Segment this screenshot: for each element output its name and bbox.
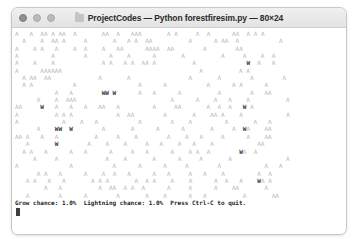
empty-cell	[120, 133, 134, 140]
empty-cell	[254, 74, 283, 81]
empty-cell	[51, 74, 98, 81]
simulation-grid: A A AA A AA A AA A AAA A A A A AA A A A …	[15, 30, 346, 199]
empty-cell	[264, 52, 271, 59]
empty-cell	[134, 59, 141, 66]
empty-cell	[91, 140, 105, 147]
grid-row: A A A A A A A A A	[15, 162, 346, 169]
empty-cell	[87, 45, 101, 52]
empty-cell	[272, 89, 290, 96]
empty-cell	[236, 125, 243, 132]
tree-glyph: A	[286, 155, 290, 162]
empty-cell	[142, 81, 164, 88]
empty-cell	[58, 89, 69, 96]
empty-cell	[207, 192, 243, 199]
empty-cell	[225, 170, 258, 177]
empty-cell	[51, 177, 62, 184]
empty-cell	[19, 111, 55, 118]
empty-cell	[73, 103, 84, 110]
empty-cell	[225, 52, 243, 59]
empty-cell	[174, 118, 188, 125]
empty-cell	[178, 30, 196, 37]
empty-cell	[113, 52, 127, 59]
empty-cell	[15, 170, 37, 177]
empty-cell	[105, 170, 112, 177]
empty-cell	[167, 111, 192, 118]
empty-cell	[243, 177, 257, 184]
empty-cell	[37, 155, 55, 162]
empty-cell	[142, 30, 167, 37]
empty-cell	[243, 45, 290, 52]
fire-glyph: WW	[102, 89, 109, 96]
empty-cell	[19, 45, 33, 52]
empty-cell	[174, 148, 188, 155]
grid-row: A WW W A A A A A A WA AA	[15, 125, 346, 132]
empty-cell	[192, 184, 214, 191]
grid-row: A A AA A AA A AA A AAA A A A A AA A A A	[15, 30, 346, 37]
empty-cell	[171, 184, 189, 191]
tree-glyph: AA	[264, 133, 271, 140]
empty-cell	[214, 125, 232, 132]
zoom-button[interactable]	[47, 14, 55, 22]
empty-cell	[62, 184, 98, 191]
empty-cell	[218, 177, 225, 184]
empty-cell	[171, 170, 189, 177]
empty-cell	[40, 96, 54, 103]
empty-cell	[142, 118, 171, 125]
empty-cell	[120, 111, 127, 118]
minimize-button[interactable]	[33, 14, 41, 22]
empty-cell	[87, 148, 109, 155]
close-button[interactable]	[19, 14, 27, 22]
empty-cell	[225, 111, 239, 118]
tree-glyph: AAA	[66, 96, 77, 103]
empty-cell	[131, 52, 153, 59]
empty-cell	[116, 170, 127, 177]
empty-cell	[181, 155, 199, 162]
empty-cell	[73, 89, 102, 96]
empty-cell	[149, 148, 171, 155]
empty-cell	[174, 177, 188, 184]
empty-cell	[210, 81, 232, 88]
empty-cell	[33, 81, 73, 88]
grid-row: AA A A A A A A A A A A A AA	[15, 133, 346, 140]
empty-cell	[257, 148, 290, 155]
empty-cell	[19, 59, 33, 66]
window-titlebar[interactable]: ProjectCodes — Python forestfiresim.py —…	[12, 8, 346, 28]
empty-cell	[272, 170, 290, 177]
empty-cell	[127, 140, 145, 147]
tree-glyph: AA	[142, 59, 149, 66]
terminal-content[interactable]: A A AA A AA A AA A AAA A A A A AA A A A …	[12, 28, 346, 234]
empty-cell	[19, 30, 30, 37]
empty-cell	[156, 177, 170, 184]
empty-cell	[156, 59, 192, 66]
empty-cell	[192, 177, 214, 184]
empty-cell	[275, 59, 289, 66]
empty-cell	[76, 96, 170, 103]
empty-cell	[214, 140, 257, 147]
empty-cell	[239, 184, 264, 191]
empty-cell	[264, 140, 289, 147]
empty-cell	[58, 103, 69, 110]
empty-cell	[192, 74, 217, 81]
empty-cell	[232, 155, 286, 162]
empty-cell	[243, 81, 265, 88]
empty-cell	[19, 118, 62, 125]
empty-cell	[167, 81, 207, 88]
empty-cell	[138, 133, 167, 140]
empty-cell	[105, 45, 116, 52]
empty-cell	[29, 140, 54, 147]
empty-cell	[15, 125, 37, 132]
empty-cell	[203, 133, 221, 140]
empty-cell	[102, 74, 127, 81]
empty-cell	[113, 59, 124, 66]
empty-cell	[142, 162, 164, 169]
empty-cell	[109, 155, 123, 162]
empty-cell	[279, 192, 290, 199]
empty-cell	[199, 30, 206, 37]
empty-cell	[73, 111, 116, 118]
empty-cell	[199, 148, 206, 155]
empty-cell	[268, 162, 279, 169]
empty-cell	[131, 74, 189, 81]
empty-cell	[66, 177, 91, 184]
terminal-window[interactable]: ProjectCodes — Python forestfiresim.py —…	[11, 7, 347, 235]
empty-cell	[19, 67, 41, 74]
